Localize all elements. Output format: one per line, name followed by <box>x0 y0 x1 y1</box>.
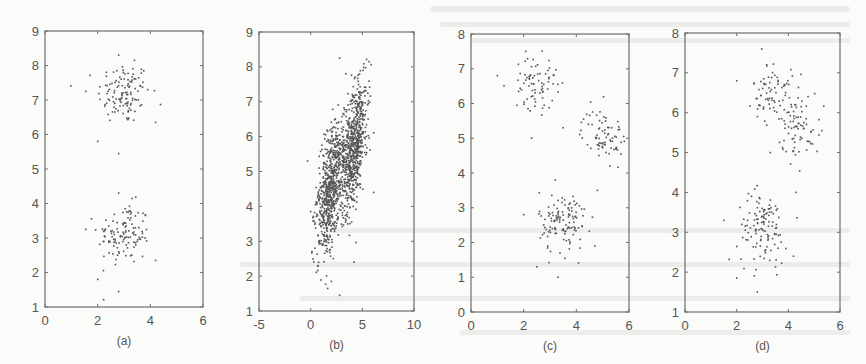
data-points <box>70 54 161 300</box>
x-tick-label: 4 <box>785 318 792 333</box>
y-tick-label: 1 <box>458 270 465 285</box>
plot-frame <box>471 34 629 312</box>
y-tick-label: 6 <box>458 96 465 111</box>
y-tick-label: 7 <box>246 94 253 109</box>
data-points <box>497 50 626 278</box>
y-tick-label: 6 <box>32 127 39 142</box>
plot-frame <box>685 33 840 312</box>
scatter-panel-c: 0246012345678(c) <box>458 27 633 354</box>
y-tick-label: 4 <box>458 166 465 181</box>
y-tick-label: 3 <box>458 200 465 215</box>
data-points <box>723 48 825 293</box>
x-tick-label: 10 <box>407 317 421 332</box>
panel-label: (a) <box>117 334 132 348</box>
y-tick-label: 7 <box>32 93 39 108</box>
y-tick-label: 0 <box>458 305 465 320</box>
x-tick-label: 6 <box>625 318 632 333</box>
y-tick-label: 4 <box>32 196 39 211</box>
y-tick-label: 5 <box>246 164 253 179</box>
x-tick-label: 2 <box>733 318 740 333</box>
y-tick-label: 4 <box>672 185 679 200</box>
x-tick-label: 6 <box>199 313 206 328</box>
x-tick-label: 2 <box>520 318 527 333</box>
scatter-panel-d: 024612345678(d) <box>672 26 844 354</box>
x-tick-label: 0 <box>307 317 314 332</box>
y-tick-label: 3 <box>672 225 679 240</box>
y-tick-label: 1 <box>672 305 679 320</box>
y-tick-label: 3 <box>32 231 39 246</box>
y-tick-label: 3 <box>246 234 253 249</box>
y-tick-label: 2 <box>672 265 679 280</box>
x-tick-label: 4 <box>573 318 580 333</box>
y-tick-label: 7 <box>458 61 465 76</box>
y-tick-label: 2 <box>32 265 39 280</box>
y-tick-label: 5 <box>672 145 679 160</box>
panel-label: (d) <box>755 339 770 353</box>
panel-label: (c) <box>543 339 557 353</box>
y-tick-label: 4 <box>246 199 253 214</box>
scatter-panel-a: 0246123456789(a) <box>32 24 207 349</box>
scatter-figure: 0246123456789(a)-50510123456789(b)024601… <box>0 0 866 364</box>
y-tick-label: 9 <box>246 25 253 40</box>
plot-frame <box>259 32 414 311</box>
y-tick-label: 6 <box>246 129 253 144</box>
x-tick-label: 6 <box>836 318 843 333</box>
y-tick-label: 7 <box>672 65 679 80</box>
y-tick-label: 2 <box>458 235 465 250</box>
y-tick-label: 9 <box>32 24 39 39</box>
y-tick-label: 1 <box>246 304 253 319</box>
x-tick-label: 5 <box>359 317 366 332</box>
y-tick-label: 5 <box>458 131 465 146</box>
x-tick-label: 0 <box>681 318 688 333</box>
y-tick-label: 8 <box>32 58 39 73</box>
scatter-panel-b: -50510123456789(b) <box>246 25 421 353</box>
x-tick-label: 4 <box>147 313 154 328</box>
x-tick-label: -5 <box>253 317 265 332</box>
y-tick-label: 8 <box>246 59 253 74</box>
y-tick-label: 6 <box>672 105 679 120</box>
x-tick-label: 0 <box>41 313 48 328</box>
x-tick-label: 2 <box>94 313 101 328</box>
x-tick-label: 0 <box>467 318 474 333</box>
y-tick-label: 5 <box>32 162 39 177</box>
y-tick-label: 8 <box>672 26 679 41</box>
y-tick-label: 1 <box>32 300 39 315</box>
y-tick-label: 8 <box>458 27 465 42</box>
panel-label: (b) <box>329 338 344 352</box>
data-points <box>307 57 375 296</box>
y-tick-label: 2 <box>246 269 253 284</box>
